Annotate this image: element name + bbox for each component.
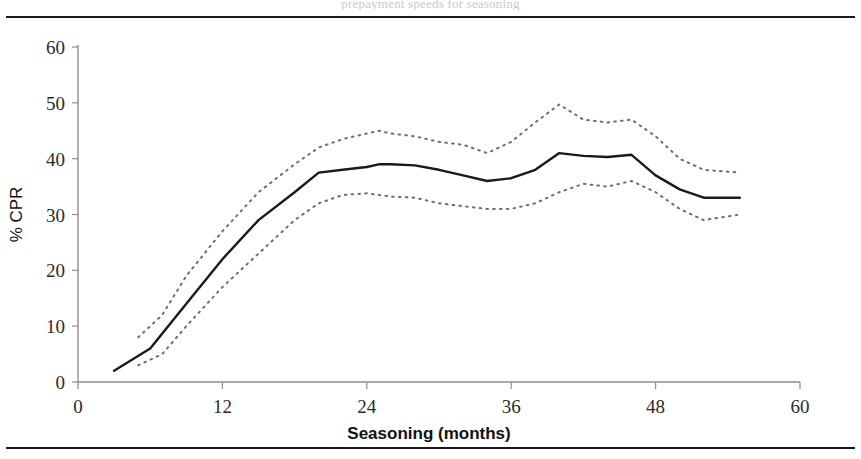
horizontal-rule-bottom xyxy=(6,447,855,449)
x-axis-tick-label: 24 xyxy=(357,396,377,417)
series-line-mean xyxy=(114,153,740,371)
y-axis-tick-label: 0 xyxy=(56,372,66,393)
x-axis-tick-label: 60 xyxy=(791,396,810,417)
x-axis-title: Seasoning (months) xyxy=(347,424,510,443)
horizontal-rule-top xyxy=(6,16,855,18)
cpr-seasoning-line-chart: 010203040506001224364860Seasoning (month… xyxy=(0,20,861,444)
top-caption-partial: prepayment speeds for seasoning xyxy=(0,0,861,10)
y-axis-tick-label: 50 xyxy=(46,93,65,114)
y-axis-title: % CPR xyxy=(7,187,26,243)
chart-area: 010203040506001224364860Seasoning (month… xyxy=(0,20,861,444)
y-axis-title-group: % CPR xyxy=(7,187,26,243)
y-axis-tick-label: 10 xyxy=(46,316,65,337)
y-axis-tick-label: 40 xyxy=(46,149,65,170)
y-axis-tick-label: 20 xyxy=(46,260,65,281)
y-axis-tick-label: 30 xyxy=(46,205,65,226)
series-line-lower-band xyxy=(138,181,740,365)
x-axis-tick-label: 0 xyxy=(73,396,83,417)
x-axis-tick-label: 12 xyxy=(213,396,232,417)
figure-page: prepayment speeds for seasoning 01020304… xyxy=(0,0,861,459)
x-axis-tick-label: 36 xyxy=(502,396,521,417)
series-line-upper-band xyxy=(138,105,740,338)
x-axis-tick-label: 48 xyxy=(646,396,665,417)
y-axis-tick-label: 60 xyxy=(46,37,65,58)
